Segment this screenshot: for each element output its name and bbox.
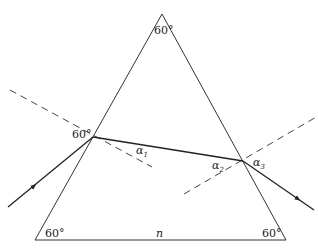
left-vertex-angle-label: 60°: [45, 228, 65, 239]
alpha3-label: α3: [253, 157, 265, 171]
prism-triangle: [35, 14, 286, 240]
refracted-ray: [93, 137, 243, 161]
prism-diagram: 60° 60° 60° 60° n α1 α2 α3: [0, 0, 318, 250]
apex-angle-label: 60°: [154, 25, 174, 36]
prism-svg: [0, 0, 318, 250]
refractive-index-label: n: [156, 228, 163, 239]
incident-ray: [8, 137, 93, 207]
alpha2-label: α2: [212, 160, 224, 174]
alpha1-label: α1: [136, 145, 148, 159]
right-vertex-angle-label: 60°: [262, 228, 282, 239]
entry-angle-label: 60°: [72, 129, 92, 140]
